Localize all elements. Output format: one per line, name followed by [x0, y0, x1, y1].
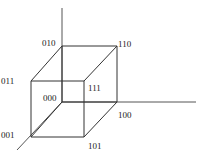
vertex-label-110: 110 [118, 39, 132, 49]
vertex-label-101: 101 [88, 141, 102, 151]
vertex-labels: 000100010110001101011111 [1, 38, 132, 151]
cube-edges [31, 46, 117, 137]
edge-010-011 [31, 46, 62, 81]
vertex-label-010: 010 [42, 38, 56, 48]
vertex-label-100: 100 [118, 110, 132, 120]
vertex-label-001: 001 [1, 130, 15, 140]
edge-110-111 [84, 46, 117, 81]
vertex-label-011: 011 [1, 76, 14, 86]
vertex-label-000: 000 [43, 93, 57, 103]
edge-100-101 [84, 102, 117, 137]
vertex-label-111: 111 [88, 83, 101, 93]
binary-cube-diagram: 000100010110001101011111 [0, 0, 208, 157]
edge-000-001 [31, 102, 62, 137]
axes [17, 8, 196, 150]
